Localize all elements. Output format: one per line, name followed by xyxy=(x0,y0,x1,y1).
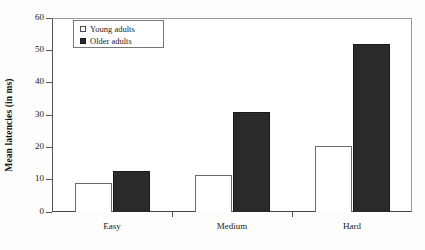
y-tick-mark xyxy=(46,82,52,83)
y-tick-mark xyxy=(46,115,52,116)
y-tick-mark xyxy=(46,212,52,213)
y-tick-mark xyxy=(46,147,52,148)
bar-easy-young-adults xyxy=(75,183,112,212)
legend-item-older-adults: Older adults xyxy=(80,35,163,47)
x-tick-label: Medium xyxy=(217,221,248,231)
filled-square-icon xyxy=(80,38,86,44)
x-tick-label: Easy xyxy=(103,221,121,231)
legend: Young adults Older adults xyxy=(73,20,164,48)
x-tick-mark xyxy=(172,212,173,217)
bar-medium-older-adults xyxy=(233,112,270,212)
bar-easy-older-adults xyxy=(113,171,150,212)
y-tick-label: 20 xyxy=(35,141,44,151)
open-square-icon xyxy=(80,26,86,32)
x-tick-label: Hard xyxy=(343,221,361,231)
y-tick-label: 60 xyxy=(35,12,44,22)
x-tick-mark xyxy=(292,212,293,217)
legend-item-young-adults: Young adults xyxy=(80,23,163,35)
y-tick-label: 40 xyxy=(35,76,44,86)
y-tick-mark xyxy=(46,50,52,51)
legend-label-older-adults: Older adults xyxy=(90,37,132,46)
legend-label-young-adults: Young adults xyxy=(90,25,135,34)
y-tick-label: 30 xyxy=(35,109,44,119)
bar-chart-figure: Mean latencies (in ms) 0102030405060 Eas… xyxy=(0,0,425,250)
y-axis-title: Mean latencies (in ms) xyxy=(2,0,16,250)
y-tick-label: 0 xyxy=(40,206,45,216)
y-tick-label: 50 xyxy=(35,44,44,54)
y-tick-label: 10 xyxy=(35,173,44,183)
bar-medium-young-adults xyxy=(195,175,232,212)
y-tick-mark xyxy=(46,18,52,19)
bar-hard-older-adults xyxy=(353,44,390,212)
bar-hard-young-adults xyxy=(315,146,352,212)
y-tick-mark xyxy=(46,179,52,180)
